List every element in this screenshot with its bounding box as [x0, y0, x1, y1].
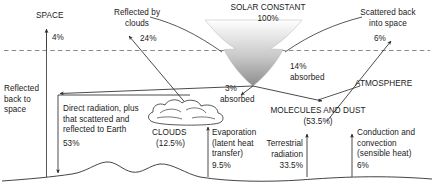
reflected-by-clouds-value: 24%: [140, 34, 157, 45]
absorbed-by-atmosphere-arrow: [253, 86, 322, 101]
atmosphere-fan-tail: [318, 86, 360, 100]
absorbed-by-clouds-word: absorbed: [220, 95, 255, 106]
absorbed-by-atmosphere-word: absorbed: [290, 73, 325, 84]
absorbed-by-clouds-value: 3%: [225, 84, 237, 95]
molecules-and-dust-label: MOLECULES AND DUST: [243, 106, 393, 117]
atmosphere-region-label: ATMOSPHERE: [355, 79, 412, 90]
energy-balance-diagram: SPACE 4% Reflected by clouds 24% SOLAR C…: [0, 0, 434, 188]
reflected-back-to-space-label: Reflected back to space: [4, 84, 39, 116]
conduction-convection-value: 6%: [357, 161, 369, 172]
scattered-back-value: 6%: [374, 34, 386, 45]
cloud-shape: [149, 100, 224, 125]
reflected-by-clouds-label: Reflected by clouds: [94, 8, 180, 29]
direct-radiation-label: Direct radiation, plus that scattered an…: [63, 104, 139, 136]
solar-beam-funnel: [205, 20, 302, 86]
terrestrial-radiation-value: 33.5%: [240, 161, 303, 172]
direct-radiation-value: 53%: [63, 139, 80, 150]
reflected-by-clouds-arrow: [129, 36, 193, 112]
absorbed-by-clouds-arrow: [241, 86, 253, 95]
absorbed-by-atmosphere-value: 14%: [290, 62, 307, 73]
solar-constant-label: SOLAR CONSTANT: [213, 3, 323, 14]
clouds-value: (12.5%): [156, 139, 185, 150]
reflected-back-to-space-value: 4%: [52, 33, 64, 44]
conduction-convection-label: Conduction and convection (sensible heat…: [357, 128, 415, 160]
evaporation-value: 9.5%: [212, 161, 231, 172]
scattered-back-label: Scattered back into space: [342, 8, 434, 29]
clouds-label: CLOUDS: [152, 128, 186, 139]
molecules-and-dust-value: (53.5%): [243, 117, 393, 128]
terrestrial-radiation-label: Terrestrial radiation: [240, 139, 303, 160]
space-region-label: SPACE: [36, 11, 63, 22]
solar-constant-value: 100%: [213, 14, 323, 25]
